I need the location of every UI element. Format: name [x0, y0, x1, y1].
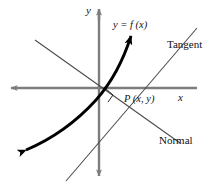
tangent-label: Tangent: [167, 39, 202, 50]
function-curve: [26, 36, 131, 150]
normal-label: Normal: [159, 135, 193, 146]
x-axis-label: x: [178, 92, 183, 103]
y-axis-label: y: [86, 5, 91, 16]
tangent-line: [66, 28, 197, 181]
function-label: y = f (x): [113, 20, 147, 31]
tangent-normal-diagram: y x y = f (x) Tangent Normal P (x, y): [0, 0, 215, 185]
point-label: P (x, y): [124, 94, 154, 105]
normal-line: [35, 40, 180, 143]
